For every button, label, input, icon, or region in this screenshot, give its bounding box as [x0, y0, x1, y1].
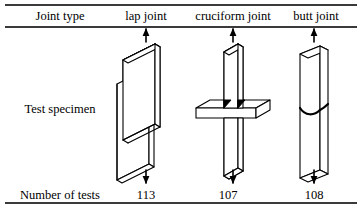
specimen-cell-butt-joint — [278, 28, 354, 184]
row-label-test-specimen: Test specimen — [14, 101, 106, 117]
load-arrow-up — [311, 28, 318, 42]
cruciform-joint-specimen-icon — [188, 28, 278, 184]
load-arrow-up — [143, 28, 150, 42]
table-rule-top — [5, 4, 357, 6]
header-cruciform-joint: cruciform joint — [188, 8, 278, 24]
header-lap-joint: lap joint — [104, 8, 188, 24]
row-label-number-of-tests: Number of tests — [14, 187, 106, 203]
number-of-tests-cruciform: 107 — [188, 187, 268, 203]
number-of-tests-lap: 113 — [106, 187, 186, 203]
load-arrow-up — [230, 28, 237, 42]
number-of-tests-butt: 108 — [274, 187, 354, 203]
specimen-cell-lap-joint — [104, 28, 188, 184]
header-butt-joint: butt joint — [278, 8, 354, 24]
butt-joint-specimen-icon — [278, 28, 354, 184]
joint-type-specimen-table: Joint type lap joint cruciform joint but… — [0, 0, 362, 208]
lap-joint-specimen-icon — [104, 28, 188, 184]
header-joint-type: Joint type — [14, 8, 106, 24]
specimen-cell-cruciform-joint — [188, 28, 278, 184]
